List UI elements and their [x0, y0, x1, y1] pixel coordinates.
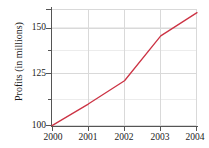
x-tick-2001: [88, 126, 89, 131]
y-tick-125: [46, 73, 52, 74]
line-chart: Profits (in millions) 150 125 100 2000 2…: [0, 0, 209, 148]
y-axis-title: Profits (in millions): [13, 0, 24, 127]
gridline-x-2003: [160, 9, 161, 126]
y-axis-spine: [51, 7, 52, 127]
y-tick-label-150: 150: [6, 23, 46, 33]
plot-area: [52, 9, 197, 126]
y-tick-162: [46, 9, 52, 10]
gridline-x-2002: [124, 9, 125, 126]
x-tick-2002: [124, 126, 125, 131]
y-tick-150: [46, 28, 52, 29]
x-tick-2000: [52, 126, 53, 131]
y-tick-minor-137: [48, 50, 52, 51]
y-tick-label-100: 100: [6, 121, 46, 131]
gridline-x-2001: [88, 9, 89, 126]
y-tick-label-125: 125: [6, 69, 46, 79]
gridline-x-2004: [196, 9, 197, 126]
y-tick-minor-112: [48, 99, 52, 100]
x-tick-2004: [196, 126, 197, 131]
x-tick-2003: [160, 126, 161, 131]
x-tick-label-2004: 2004: [173, 133, 209, 143]
